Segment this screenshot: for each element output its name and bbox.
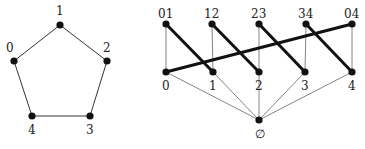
lattice-node-23	[255, 20, 262, 27]
lattice-node-label: 1	[209, 79, 217, 93]
lattice-node-label: 0	[162, 79, 170, 93]
pentagon-edge	[60, 25, 107, 61]
lattice-node-label: 3	[301, 79, 309, 93]
lattice-node-label: 04	[344, 7, 360, 21]
lattice-thin-edge	[259, 72, 305, 120]
lattice-node-1	[209, 68, 216, 75]
pentagon-edge	[14, 25, 60, 61]
pentagon-edge	[14, 61, 32, 116]
lattice-node-label: 23	[251, 7, 266, 21]
pentagon-node-4	[28, 112, 35, 119]
lattice-thin-edge	[212, 24, 213, 72]
lattice-node-2	[255, 68, 262, 75]
lattice-node-label: ∅	[255, 127, 265, 141]
lattice-node-label: 4	[348, 79, 356, 93]
lattice-thick-edge	[259, 24, 305, 72]
lattice-node-04	[348, 20, 355, 27]
pentagon-edges	[14, 25, 107, 116]
lattice-node-3	[301, 68, 308, 75]
pentagon-node-label: 1	[56, 4, 64, 18]
lattice-node-12	[208, 20, 215, 27]
lattice-node-0	[162, 68, 169, 75]
lattice-node-34	[302, 20, 309, 27]
pentagon-node-2	[103, 57, 110, 64]
pentagon-edge	[90, 61, 107, 116]
lattice-thin-edge	[213, 72, 259, 120]
lattice-node-label: 2	[255, 79, 263, 93]
pentagon-node-1	[56, 21, 63, 28]
pentagon-node-label: 3	[86, 123, 94, 137]
lattice-node-01	[162, 20, 169, 27]
pentagon-node-label: 2	[103, 41, 111, 55]
graph-diagram: 01234011223340401234∅	[0, 0, 365, 149]
lattice-node-label: 34	[298, 7, 314, 21]
pentagon-node-0	[10, 57, 17, 64]
lattice-thin-edge	[305, 24, 306, 72]
lattice-node-4	[348, 68, 355, 75]
pentagon-node-3	[86, 112, 93, 119]
lattice-node-label: 01	[158, 7, 173, 21]
lattice-thick-edge	[212, 24, 259, 72]
lattice-node-empty	[255, 116, 262, 123]
pentagon-node-label: 4	[28, 123, 36, 137]
lattice-node-label: 12	[204, 7, 219, 21]
pentagon-node-label: 0	[6, 41, 14, 55]
